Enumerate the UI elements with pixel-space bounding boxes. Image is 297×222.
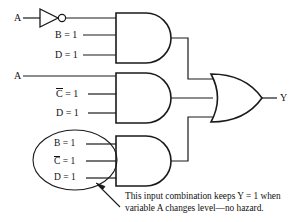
cbar-overline-glyph-2: C [54,156,60,167]
input-label-a-inverter: A [14,13,21,23]
input-label-and3-cbar-suffix: = 1 [60,156,75,166]
output-label-y: Y [280,93,287,103]
inverter-triangle [40,9,58,27]
input-label-and3-cbar: C = 1 [54,156,75,167]
input-label-and2-cbar: C = 1 [56,88,78,99]
and-gate-2 [116,73,171,123]
annotation-caption-line-1: This input combination keeps Y = 1 when [125,191,281,203]
input-label-and1-b: B = 1 [55,30,77,40]
logic-circuit-svg [0,0,297,222]
inverter-bubble-icon [58,14,65,21]
and-gate-1 [116,13,171,63]
wire-and1-out-to-or-in1 [171,38,213,79]
wire-and3-out-to-or-in3 [171,117,213,161]
and-gate-3 [116,136,171,186]
input-label-and1-d: D = 1 [55,50,78,60]
input-label-and3-b: B = 1 [54,139,75,149]
cbar-overline-glyph: C [56,88,63,99]
input-label-a-direct: A [14,71,21,81]
input-label-and2-d: D = 1 [56,108,79,118]
or-gate [211,74,262,122]
input-label-and3-d: D = 1 [54,173,76,183]
input-label-and2-cbar-suffix: = 1 [63,88,79,99]
annotation-caption-line-2: variable A changes level—no hazard. [125,203,264,215]
figure-canvas: A B = 1 D = 1 A C = 1 D = 1 B = 1 C = 1 … [0,0,297,222]
